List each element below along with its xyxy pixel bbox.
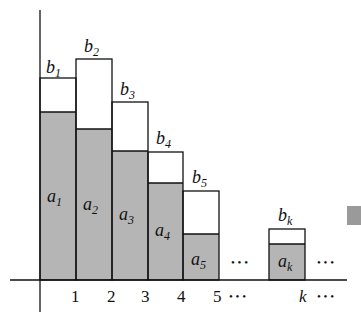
svg-text:b5: b5 [192, 167, 207, 190]
ellipsis-right: • • • [317, 256, 334, 268]
series-comparison-diagram: b1 b2 b3 b4 b5 bk a1 a2 a3 a4 a5 ak • • … [0, 0, 361, 323]
ellipsis-middle: • • • [231, 256, 248, 268]
svg-text:5: 5 [213, 287, 222, 306]
svg-text:• • •: • • • [229, 290, 246, 302]
svg-text:b2: b2 [84, 36, 99, 59]
svg-text:2: 2 [107, 287, 116, 306]
svg-text:• • •: • • • [317, 290, 334, 302]
gray-marker-square [347, 206, 361, 225]
svg-text:4: 4 [177, 287, 186, 306]
svg-text:3: 3 [141, 287, 150, 306]
svg-text:b4: b4 [156, 128, 171, 151]
svg-text:bk: bk [278, 205, 293, 228]
svg-text:b3: b3 [120, 79, 135, 102]
svg-text:k: k [299, 287, 307, 306]
svg-text:1: 1 [71, 287, 80, 306]
x-tick-labels: 1 2 3 4 5 • • • k • • • [71, 287, 334, 306]
shaded-a-bars [40, 112, 305, 280]
svg-text:b1: b1 [46, 57, 61, 80]
